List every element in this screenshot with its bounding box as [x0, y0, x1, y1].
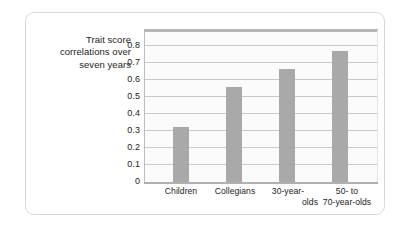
y-tick-0.4: 0.4	[114, 109, 140, 118]
x-axis-line	[144, 182, 378, 184]
y-tick-0.6: 0.6	[114, 75, 140, 84]
bar-collegians[interactable]	[226, 87, 242, 182]
bar-children[interactable]	[173, 127, 189, 182]
y-tick-0.8: 0.8	[114, 41, 140, 50]
x-label-50-to-70-year-olds-line-2: 70-year-olds	[308, 197, 386, 208]
x-label-50-to-70-year-olds-line-1: 50- to	[308, 186, 386, 197]
y-tick-0.1: 0.1	[114, 160, 140, 169]
bar-50-to-70-year-olds[interactable]	[332, 51, 348, 182]
bar-30-year-olds[interactable]	[279, 69, 295, 182]
y-tick-0.5: 0.5	[114, 92, 140, 101]
y-tick-0: 0	[114, 177, 140, 186]
x-label-50-to-70-year-olds: 50- to 70-year-olds	[308, 186, 386, 207]
bar-series	[144, 30, 378, 182]
y-tick-0.7: 0.7	[114, 58, 140, 67]
figure-root: Trait score correlations over seven year…	[0, 0, 406, 235]
y-tick-0.3: 0.3	[114, 126, 140, 135]
x-axis-labels: Children Collegians 30-year- olds 50- to…	[144, 186, 378, 216]
y-tick-0.2: 0.2	[114, 143, 140, 152]
